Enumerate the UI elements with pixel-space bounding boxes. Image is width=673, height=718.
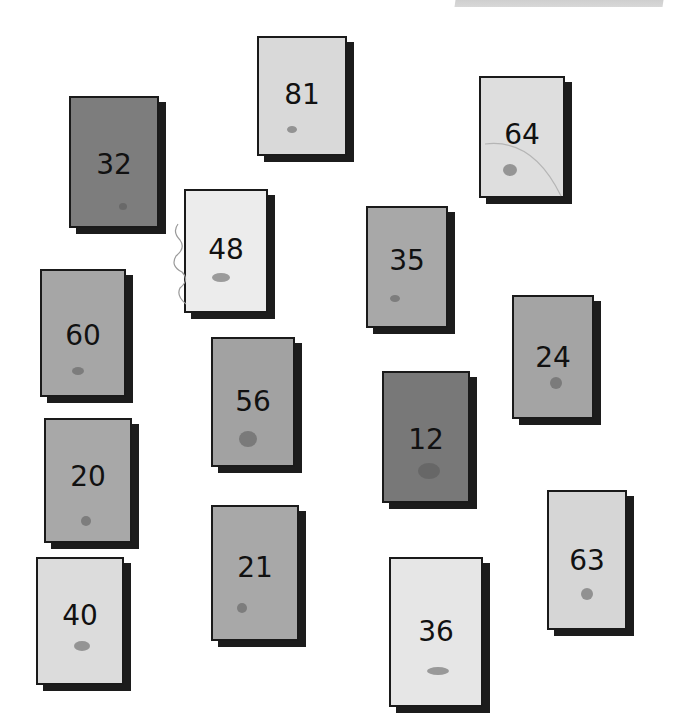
card-number: 63 bbox=[549, 544, 625, 577]
card-number: 21 bbox=[213, 551, 297, 584]
card-number: 36 bbox=[391, 615, 481, 648]
number-card: 35 bbox=[366, 206, 448, 328]
card-mark bbox=[239, 431, 257, 447]
card-mark bbox=[287, 126, 297, 133]
card-number: 60 bbox=[42, 319, 124, 352]
number-card: 40 bbox=[36, 557, 124, 685]
card-mark bbox=[418, 463, 440, 479]
card-mark bbox=[390, 295, 400, 302]
card-number: 32 bbox=[71, 148, 157, 181]
card-number: 12 bbox=[384, 423, 468, 456]
card-number: 35 bbox=[368, 244, 446, 277]
number-card: 21 bbox=[211, 505, 299, 641]
card-number: 81 bbox=[259, 78, 345, 111]
card-mark bbox=[427, 667, 449, 675]
pencil-arc bbox=[483, 140, 563, 200]
pencil-squiggle bbox=[170, 222, 200, 312]
number-card: 32 bbox=[69, 96, 159, 228]
card-mark bbox=[212, 273, 230, 282]
number-card: 63 bbox=[547, 490, 627, 630]
card-mark bbox=[119, 203, 127, 210]
card-mark bbox=[581, 588, 593, 600]
card-mark bbox=[74, 641, 90, 651]
card-number: 20 bbox=[46, 460, 130, 493]
card-mark bbox=[72, 367, 84, 375]
number-card: 81 bbox=[257, 36, 347, 156]
number-card: 12 bbox=[382, 371, 470, 503]
card-mark bbox=[81, 516, 91, 526]
paper-edge-strip bbox=[455, 0, 664, 7]
number-card: 56 bbox=[211, 337, 295, 467]
card-mark bbox=[550, 377, 562, 389]
number-card: 36 bbox=[389, 557, 483, 707]
card-number: 40 bbox=[38, 599, 122, 632]
number-card: 60 bbox=[40, 269, 126, 397]
number-card: 24 bbox=[512, 295, 594, 419]
number-card: 20 bbox=[44, 418, 132, 543]
card-number: 24 bbox=[514, 341, 592, 374]
card-mark bbox=[237, 603, 247, 613]
card-number: 56 bbox=[213, 385, 293, 418]
